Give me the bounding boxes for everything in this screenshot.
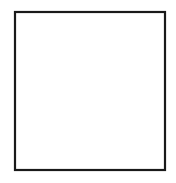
figure-frame-border: [15, 12, 165, 170]
figure-root: Static electricity: charged balloon attr…: [0, 0, 176, 183]
static-electricity-illustration: −+−−−+++: [0, 0, 176, 183]
